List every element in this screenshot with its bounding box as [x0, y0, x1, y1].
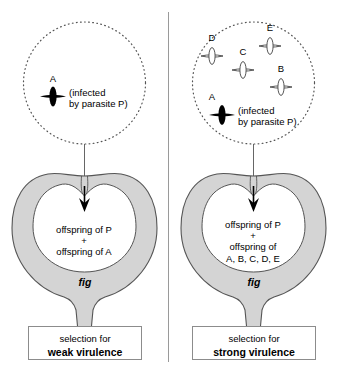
figure-root: A (infected by parasite P) offspring of … — [0, 0, 338, 374]
fig-cavity-text: offspring of P + offspring of A, B, C, D… — [186, 219, 320, 264]
caption-line-2: strong virulence — [193, 346, 315, 358]
wasp-label-D: D — [203, 33, 221, 44]
wasp-D-glyph — [201, 48, 223, 65]
caption-box-weak-virulence: selection for weak virulence — [28, 326, 142, 360]
wasp-B-glyph — [270, 79, 292, 96]
wasp-E-glyph — [259, 38, 281, 55]
panel-weak-virulence: A (infected by parasite P) offspring of … — [0, 0, 169, 374]
caption-box-strong-virulence: selection for strong virulence — [192, 326, 316, 360]
wasp-C-glyph — [232, 62, 254, 79]
wasp-label-E: E — [261, 23, 279, 34]
panel-left-graphics — [0, 0, 169, 374]
caption-line-2: weak virulence — [29, 346, 141, 358]
infected-note: (infected by parasite P) — [238, 106, 297, 128]
caption-line-1: selection for — [193, 333, 315, 344]
fig-label: fig — [233, 277, 275, 289]
infected-note: (infected by parasite P) — [69, 88, 128, 110]
caption-line-1: selection for — [29, 333, 141, 344]
wasp-label-A: A — [203, 92, 221, 103]
wasp-A-glyph — [40, 87, 66, 107]
fig-label: fig — [64, 277, 106, 289]
wasp-label-B: B — [272, 64, 290, 75]
panel-strong-virulence: A B C D E (infected by parasite P) offsp… — [169, 0, 338, 374]
wasp-label-A: A — [44, 74, 62, 85]
wasp-label-C: C — [234, 47, 252, 58]
fig-cavity-text: offspring of P + offspring of A — [24, 224, 144, 258]
wasp-A-glyph — [209, 105, 235, 125]
wasp-cloud-circle — [24, 22, 146, 144]
panel-right-graphics — [169, 0, 338, 374]
